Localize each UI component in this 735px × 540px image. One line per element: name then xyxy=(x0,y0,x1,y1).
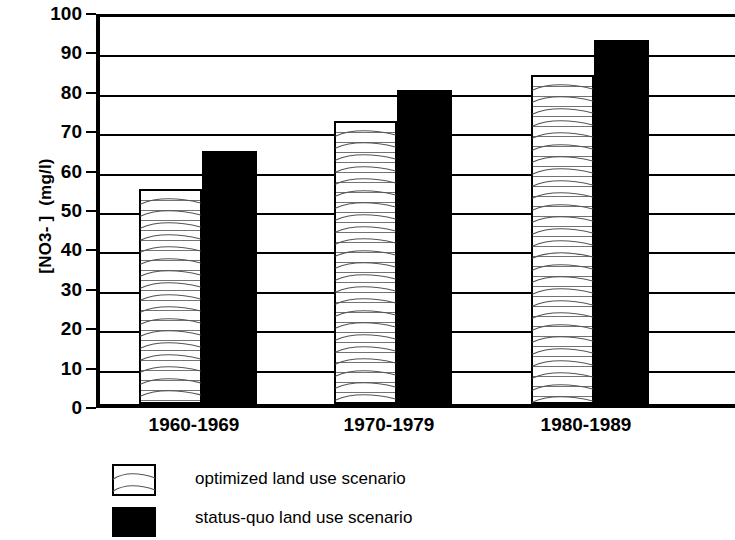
y-axis-tick-label: 40 xyxy=(26,240,82,259)
y-axis-tick-labels: 0102030405060708090100 xyxy=(26,0,82,534)
y-axis-tick-mark xyxy=(86,368,96,370)
bar-1970-1979-status-quo xyxy=(397,90,452,404)
x-axis-tick-label: 1980-1989 xyxy=(516,414,656,436)
wavy-fill-pattern xyxy=(334,121,397,404)
y-axis-tick-mark xyxy=(86,92,96,94)
y-axis-tick-label: 10 xyxy=(26,359,82,378)
y-axis-tick-mark xyxy=(86,407,96,409)
bar-1960-1969-status-quo xyxy=(202,151,257,404)
legend-label: optimized land use scenario xyxy=(195,469,406,489)
legend-label: status-quo land use scenario xyxy=(195,508,412,528)
x-axis-tick-label: 1970-1979 xyxy=(319,414,459,436)
y-axis-tick-label: 90 xyxy=(26,43,82,62)
x-axis-tick-label: 1960-1969 xyxy=(124,414,264,436)
y-axis-tick-label: 50 xyxy=(26,201,82,220)
wavy-fill-pattern xyxy=(531,75,594,404)
y-axis-tick-mark xyxy=(86,210,96,212)
legend-item: status-quo land use scenario xyxy=(112,501,612,540)
wavy-fill-pattern xyxy=(139,189,202,404)
bar-1980-1989-optimized xyxy=(531,75,594,404)
y-axis-tick-mark xyxy=(86,13,96,15)
y-axis-tick-mark xyxy=(86,131,96,133)
y-axis-tick-label: 30 xyxy=(26,280,82,299)
legend-swatch-optimized xyxy=(112,464,156,496)
y-axis-tick-label: 20 xyxy=(26,319,82,338)
bar-1980-1989-status-quo xyxy=(594,40,649,404)
chart-legend: optimized land use scenariostatus-quo la… xyxy=(112,462,612,540)
plot-area xyxy=(96,14,735,408)
wavy-fill-pattern xyxy=(112,464,156,496)
legend-item: optimized land use scenario xyxy=(112,462,612,501)
x-axis-tick-labels: 1960-19691970-19791980-1989 xyxy=(96,414,735,444)
y-axis-tick-label: 70 xyxy=(26,122,82,141)
y-axis-tick-label: 80 xyxy=(26,83,82,102)
y-axis-tick-mark xyxy=(86,289,96,291)
legend-swatch-statusquo xyxy=(112,507,156,537)
y-axis-tick-mark xyxy=(86,328,96,330)
bar-1960-1969-optimized xyxy=(139,189,202,404)
bar-1970-1979-optimized xyxy=(334,121,397,404)
y-axis-tick-label: 60 xyxy=(26,162,82,181)
y-axis-tick-label: 0 xyxy=(26,398,82,417)
y-axis-tick-label: 100 xyxy=(26,4,82,23)
y-axis-tick-mark xyxy=(86,52,96,54)
y-axis-tick-mark xyxy=(86,249,96,251)
y-axis-tick-mark xyxy=(86,171,96,173)
